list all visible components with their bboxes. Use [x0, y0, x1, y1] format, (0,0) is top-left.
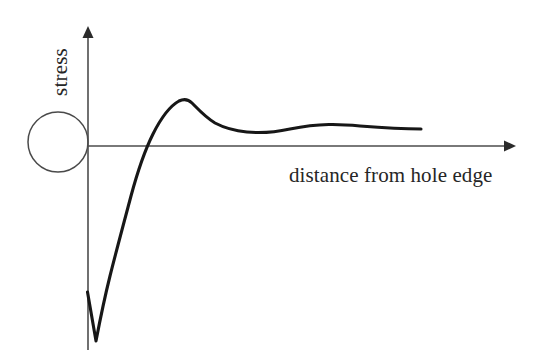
y-axis-label-text: stress — [50, 48, 71, 96]
hole-circle — [28, 112, 88, 172]
stress-curve — [88, 100, 422, 341]
x-axis-arrow — [504, 141, 516, 152]
y-axis-arrow — [83, 26, 94, 38]
stress-distribution-figure: stress distance from hole edge — [0, 0, 538, 364]
y-axis-label: stress — [38, 34, 82, 110]
x-axis-label: distance from hole edge — [289, 165, 492, 186]
